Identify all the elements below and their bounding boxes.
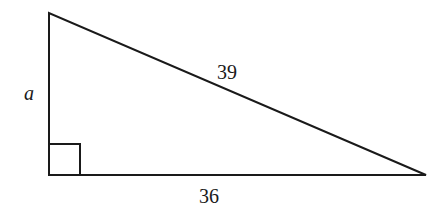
right-triangle-diagram: a 39 36 <box>0 0 443 213</box>
hypotenuse-label: 39 <box>217 61 237 83</box>
right-angle-marker <box>49 144 80 175</box>
vertical-leg-label: a <box>24 82 34 104</box>
horizontal-leg-label: 36 <box>199 185 219 207</box>
triangle-outline <box>49 13 426 175</box>
